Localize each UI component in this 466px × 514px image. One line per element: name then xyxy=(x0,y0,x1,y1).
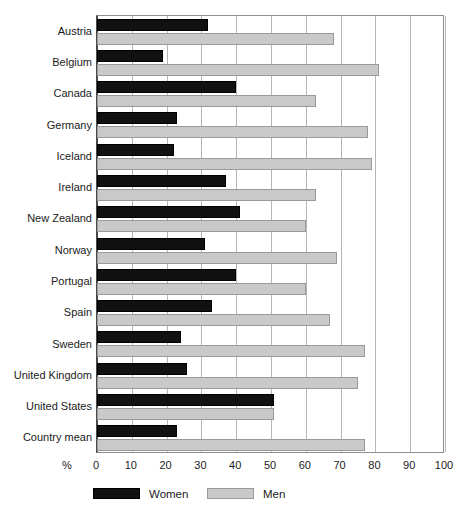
x-tick-label-60: 60 xyxy=(290,459,320,471)
legend-label-men: Men xyxy=(263,487,285,501)
x-tick-label-10: 10 xyxy=(116,459,146,471)
bar-men-sweden xyxy=(97,345,365,357)
x-tick-label-100: 100 xyxy=(429,459,459,471)
bar-row xyxy=(97,235,443,266)
y-axis-label-spain: Spain xyxy=(0,306,92,318)
y-axis-label-sweden: Sweden xyxy=(0,338,92,350)
bar-women-austria xyxy=(97,19,208,31)
legend-swatch-men-icon xyxy=(207,488,254,499)
bar-men-spain xyxy=(97,314,330,326)
bar-men-norway xyxy=(97,252,337,264)
bar-women-canada xyxy=(97,81,236,93)
bar-women-iceland xyxy=(97,144,174,156)
bar-row xyxy=(97,110,443,141)
plot-area xyxy=(96,15,444,453)
bar-men-canada xyxy=(97,95,316,107)
bar-men-iceland xyxy=(97,158,372,170)
bar-women-united-states xyxy=(97,394,274,406)
bar-row xyxy=(97,172,443,203)
bar-men-germany xyxy=(97,126,368,138)
bar-women-sweden xyxy=(97,331,181,343)
y-axis-label-united-states: United States xyxy=(0,400,92,412)
bar-row xyxy=(97,141,443,172)
x-tick-label-40: 40 xyxy=(220,459,250,471)
bar-row xyxy=(97,16,443,47)
y-axis-label-country-mean: Country mean xyxy=(0,431,92,443)
x-axis-unit-label: % xyxy=(62,459,72,471)
bar-women-new-zealand xyxy=(97,206,240,218)
bar-men-austria xyxy=(97,33,334,45)
y-axis-label-new-zealand: New Zealand xyxy=(0,212,92,224)
bar-row xyxy=(97,391,443,422)
bar-women-portugal xyxy=(97,269,236,281)
y-axis-label-iceland: Iceland xyxy=(0,150,92,162)
bar-women-germany xyxy=(97,112,177,124)
bar-women-norway xyxy=(97,238,205,250)
grouped-bar-chart: AustriaBelgiumCanadaGermanyIcelandIrelan… xyxy=(0,0,466,514)
bar-row xyxy=(97,360,443,391)
bar-men-united-states xyxy=(97,408,274,420)
bar-row xyxy=(97,47,443,78)
y-axis-label-portugal: Portugal xyxy=(0,275,92,287)
x-tick-label-50: 50 xyxy=(255,459,285,471)
bar-men-united-kingdom xyxy=(97,377,358,389)
y-axis-label-germany: Germany xyxy=(0,119,92,131)
x-axis: % 0102030405060708090100 xyxy=(0,455,466,477)
bar-row xyxy=(97,298,443,329)
bar-men-ireland xyxy=(97,189,316,201)
legend-swatch-women-icon xyxy=(93,488,140,499)
y-axis-label-ireland: Ireland xyxy=(0,181,92,193)
bar-women-country-mean xyxy=(97,425,177,437)
bar-rows xyxy=(97,16,443,452)
x-tick-label-30: 30 xyxy=(185,459,215,471)
x-tick-label-0: 0 xyxy=(81,459,111,471)
x-tick-label-80: 80 xyxy=(359,459,389,471)
y-axis-label-belgium: Belgium xyxy=(0,56,92,68)
bar-women-belgium xyxy=(97,50,163,62)
y-axis-label-united-kingdom: United Kingdom xyxy=(0,369,92,381)
x-tick-label-70: 70 xyxy=(325,459,355,471)
bar-men-portugal xyxy=(97,283,306,295)
y-axis-category-labels: AustriaBelgiumCanadaGermanyIcelandIrelan… xyxy=(0,15,92,453)
bar-women-spain xyxy=(97,300,212,312)
bar-row xyxy=(97,79,443,110)
x-tick-label-20: 20 xyxy=(151,459,181,471)
y-axis-label-norway: Norway xyxy=(0,244,92,256)
bar-row xyxy=(97,204,443,235)
legend-label-women: Women xyxy=(149,487,188,501)
bar-men-country-mean xyxy=(97,439,365,451)
bar-row xyxy=(97,423,443,454)
bar-men-belgium xyxy=(97,64,379,76)
x-tick-label-90: 90 xyxy=(394,459,424,471)
bar-women-united-kingdom xyxy=(97,363,187,375)
bar-row xyxy=(97,266,443,297)
chart-legend: Women Men xyxy=(0,487,466,507)
bar-row xyxy=(97,329,443,360)
bar-women-ireland xyxy=(97,175,226,187)
y-axis-label-austria: Austria xyxy=(0,25,92,37)
y-axis-label-canada: Canada xyxy=(0,87,92,99)
bar-men-new-zealand xyxy=(97,220,306,232)
gridline-100 xyxy=(445,16,446,452)
